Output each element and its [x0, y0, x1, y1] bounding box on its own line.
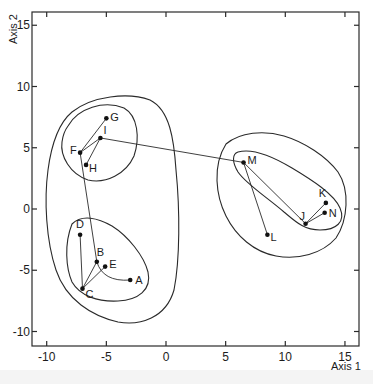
contour-outer-right	[217, 133, 346, 257]
x-tick-label: 5	[222, 350, 229, 364]
link-M-J	[244, 162, 306, 223]
point-F	[78, 150, 83, 155]
point-C	[80, 286, 85, 291]
point-K	[324, 201, 329, 206]
link-C-B	[82, 262, 96, 289]
point-D	[78, 232, 83, 237]
link-C-E	[82, 267, 105, 289]
point-B	[95, 259, 100, 264]
point-G	[104, 116, 109, 121]
point-label-L: L	[270, 231, 276, 243]
link-F-I	[80, 138, 100, 153]
y-tick-label: 0	[23, 202, 30, 216]
point-label-C: C	[85, 288, 93, 300]
point-label-N: N	[329, 207, 337, 219]
x-tick-label: -10	[38, 350, 56, 364]
y-tick-label: -10	[13, 325, 31, 339]
link-C-D	[80, 235, 82, 289]
point-label-A: A	[135, 274, 143, 286]
point-label-E: E	[109, 258, 116, 270]
y-tick-label: -5	[19, 263, 30, 277]
point-label-K: K	[319, 187, 327, 199]
x-tick-label: 0	[163, 350, 170, 364]
point-label-D: D	[76, 218, 84, 230]
point-E	[103, 264, 108, 269]
y-tick-label: 5	[23, 141, 30, 155]
point-label-I: I	[103, 124, 106, 136]
point-A	[128, 278, 133, 283]
point-label-G: G	[110, 111, 119, 123]
point-H	[84, 163, 89, 168]
link-M-L	[244, 162, 268, 234]
point-label-F: F	[70, 144, 77, 156]
contour-inner-ABCDE	[67, 218, 149, 301]
y-tick-label: 10	[17, 80, 31, 94]
ordination-diagram: -10-5051015 151050-5-10 Axis 1 Axis 2 AB…	[0, 0, 373, 384]
point-I	[98, 136, 103, 141]
point-label-B: B	[97, 246, 104, 258]
point-L	[265, 232, 270, 237]
point-label-M: M	[248, 154, 257, 166]
point-M	[241, 160, 246, 165]
point-J	[303, 221, 308, 226]
link-lines	[80, 118, 326, 288]
y-ticks: 151050-5-10	[13, 18, 359, 338]
y-axis-title: Axis 2	[7, 14, 19, 44]
x-tick-label: 10	[279, 350, 293, 364]
point-N	[322, 210, 327, 215]
x-tick-label: -5	[101, 350, 112, 364]
point-label-H: H	[89, 162, 97, 174]
point-label-J: J	[300, 210, 306, 222]
x-axis-title: Axis 1	[331, 360, 361, 372]
